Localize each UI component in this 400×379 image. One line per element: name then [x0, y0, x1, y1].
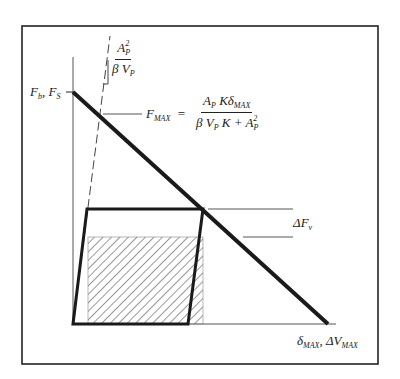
- delta-max-subscript: MAX: [303, 341, 319, 350]
- fmax-numerator: AP KδMAX: [201, 94, 252, 113]
- delta-fv-label: ΔFv: [293, 216, 312, 232]
- fmax-subscript: MAX: [154, 114, 170, 123]
- ap-subscript: P: [125, 48, 130, 57]
- diagram-canvas: [0, 0, 400, 379]
- num-a: A: [203, 93, 211, 108]
- slope-fraction: AP2 β VP: [110, 40, 137, 78]
- vp-subscript: P: [130, 69, 135, 78]
- slope-denominator: β VP: [110, 60, 137, 78]
- num-k-delta: Kδ: [216, 93, 234, 108]
- fb-symbol: F: [30, 84, 38, 99]
- delta-v-symbol: , ΔV: [319, 333, 341, 348]
- delta-v-subscript: MAX: [342, 341, 358, 350]
- x-intercept-label: δMAX, ΔVMAX: [297, 334, 358, 350]
- hatched-area: [88, 237, 203, 324]
- den-a-sup: 2: [253, 114, 257, 123]
- y-intercept-label: Fb, FS: [30, 85, 60, 101]
- den-a-sub: P: [253, 123, 258, 132]
- den-beta-v: β V: [196, 115, 214, 130]
- beta-vp: β V: [112, 61, 130, 76]
- fmax-fraction: AP KδMAX β VP K + AP2: [194, 94, 259, 132]
- ap-superscript: 2: [125, 39, 129, 48]
- slope-numerator: AP2: [115, 40, 131, 60]
- delta-f-symbol: ΔF: [293, 215, 309, 230]
- delta-f-subscript: v: [309, 223, 313, 232]
- fmax-denominator: β VP K + AP2: [194, 113, 259, 132]
- fmax-symbol: F: [146, 106, 154, 121]
- num-max-sub: MAX: [234, 101, 250, 110]
- equals-sign: =: [178, 106, 185, 121]
- fmax-lhs: FMAX =: [146, 107, 185, 123]
- fs-subscript: S: [56, 92, 60, 101]
- den-rest: K + A: [219, 115, 254, 130]
